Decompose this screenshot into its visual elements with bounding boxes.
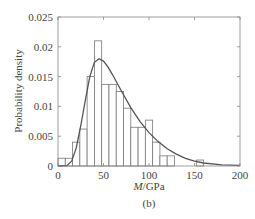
x-axis-label: M/GPa	[132, 180, 164, 192]
x-axis-label-unit: /GPa	[143, 180, 165, 192]
y-tick-label: 0.01	[34, 100, 53, 112]
histogram-bar	[80, 129, 87, 166]
y-tick-label: 0.005	[28, 130, 53, 142]
histogram-bar	[153, 142, 160, 166]
x-tick-label: 50	[98, 169, 110, 181]
y-tick-label: 0.02	[34, 41, 53, 53]
histogram-bar	[145, 120, 152, 166]
histogram-bar	[124, 108, 131, 166]
y-tick-label: 0	[48, 160, 54, 172]
x-tick-label: 150	[186, 169, 203, 181]
histogram-bar	[131, 127, 138, 166]
histogram-bars	[58, 41, 204, 166]
histogram-bar	[160, 156, 167, 166]
histogram-bar	[167, 156, 174, 166]
histogram-bar	[102, 84, 109, 166]
histogram-bar	[58, 158, 65, 166]
histogram-chart: 05010015020000.0050.010.0150.020.025 Pro…	[0, 0, 255, 219]
y-tick-label: 0.025	[28, 11, 53, 23]
figure-caption: (b)	[143, 197, 156, 210]
histogram-bar	[116, 92, 123, 167]
histogram-bar	[87, 77, 94, 166]
histogram-bar	[138, 127, 145, 166]
y-axis-label: Probability density	[12, 49, 24, 133]
x-tick-label: 200	[232, 169, 249, 181]
y-tick-label: 0.015	[28, 71, 53, 83]
x-tick-label: 0	[55, 169, 61, 181]
histogram-bar	[109, 84, 116, 166]
